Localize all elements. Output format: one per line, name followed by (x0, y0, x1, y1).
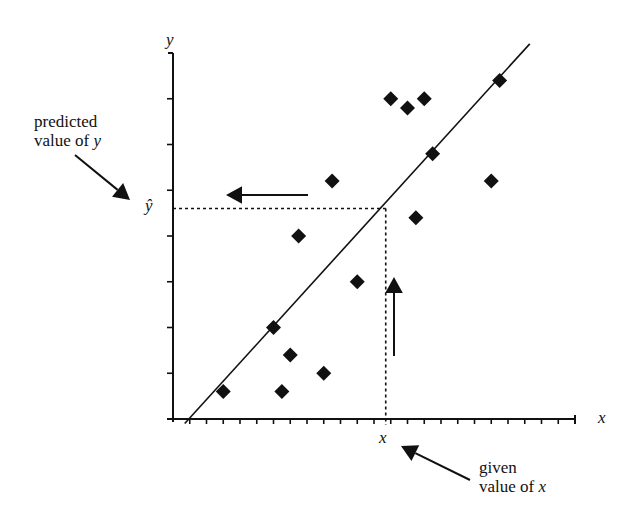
data-point-diamond (316, 366, 331, 381)
x-axis-label: x (598, 408, 606, 427)
predicted-callout-arrow-icon-head (112, 183, 130, 200)
axes (167, 53, 575, 424)
data-point-diamond (383, 91, 398, 106)
scatter-regression-chart (0, 0, 640, 526)
given-callout-line1: given (479, 458, 546, 477)
given-callout-line2: value of x (479, 477, 546, 496)
y-hat-label: ŷ (145, 196, 153, 215)
data-point-diamond (417, 91, 432, 106)
arrows (75, 155, 470, 480)
fitted-line (185, 44, 530, 424)
predicted-callout-var: y (93, 131, 101, 150)
data-point-diamond (274, 384, 289, 399)
data-point-diamond (291, 229, 306, 244)
data-point-diamond (484, 174, 499, 189)
regression-line (185, 44, 530, 424)
given-x-label: x (379, 428, 387, 447)
data-point-diamond (408, 210, 423, 225)
data-point-diamond (492, 73, 507, 88)
predicted-callout-line1: predicted (34, 112, 101, 131)
y-axis-label: y (166, 30, 174, 49)
given-callout-text: value of (479, 477, 538, 496)
data-point-diamond (425, 146, 440, 161)
left-arrow-icon-head (226, 186, 242, 204)
given-callout-arrow-icon-shaft (415, 453, 470, 480)
data-point-diamond (325, 174, 340, 189)
predicted-callout-line2: value of y (34, 131, 101, 150)
predicted-callout-arrow-icon-shaft (75, 155, 118, 190)
data-point-diamond (283, 347, 298, 362)
data-points (216, 73, 507, 399)
predicted-value-callout: predicted value of y (34, 112, 101, 150)
up-arrow-icon-head (385, 277, 403, 293)
predicted-callout-text: value of (34, 131, 93, 150)
given-callout-var: x (538, 477, 546, 496)
given-value-callout: given value of x (479, 458, 546, 496)
data-point-diamond (350, 274, 365, 289)
data-point-diamond (400, 100, 415, 115)
